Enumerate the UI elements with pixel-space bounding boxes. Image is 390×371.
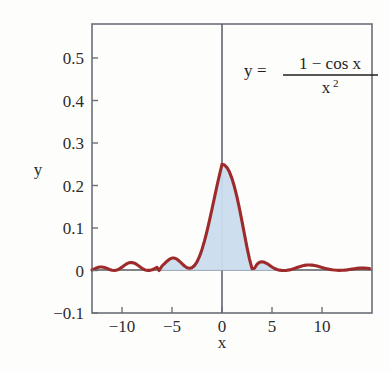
area-fill <box>159 164 285 270</box>
y-tick-label: 0.5 <box>63 49 84 68</box>
x-axis-ticks <box>122 307 322 313</box>
y-tick-label: 0 <box>76 262 85 281</box>
equation-numerator: 1 − cos x <box>299 54 361 73</box>
y-axis-ticks <box>92 58 98 313</box>
y-tick-label: 0.1 <box>63 219 84 238</box>
chart-figure: −10−50510 −0.100.10.20.30.40.5 x y y = 1… <box>0 0 390 371</box>
x-tick-label: 10 <box>314 317 331 336</box>
x-axis-label: x <box>218 333 227 352</box>
central-lobe-fill <box>159 164 285 270</box>
equation-annotation: y = 1 − cos x x 2 <box>244 54 378 97</box>
equation-equals: = <box>257 61 267 80</box>
equation-lhs: y <box>244 61 253 80</box>
y-tick-label: 0.3 <box>63 134 84 153</box>
x-tick-label: −5 <box>163 317 181 336</box>
y-tick-label: −0.1 <box>53 304 84 323</box>
y-axis-label: y <box>34 160 43 179</box>
equation-denominator-base: x <box>322 78 331 97</box>
x-tick-label: 5 <box>268 317 277 336</box>
y-tick-label: 0.4 <box>63 92 85 111</box>
function-plot: −10−50510 −0.100.10.20.30.40.5 x y y = 1… <box>0 0 390 371</box>
y-tick-label: 0.2 <box>63 177 84 196</box>
x-tick-label: −10 <box>109 317 136 336</box>
y-axis-tick-labels: −0.100.10.20.30.40.5 <box>53 49 84 323</box>
equation-denominator-exponent: 2 <box>333 77 339 89</box>
